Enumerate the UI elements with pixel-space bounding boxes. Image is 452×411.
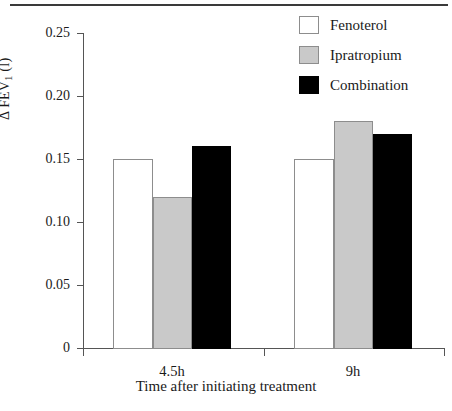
y-tick-015 bbox=[77, 159, 83, 160]
y-tick-label-005: 0.05 bbox=[4, 278, 70, 292]
bar-ipratropium-9h bbox=[334, 121, 373, 349]
x-tick-group-divider bbox=[264, 349, 265, 356]
y-tick-label-000: 0 bbox=[4, 341, 70, 355]
bar-combination-4.5h bbox=[192, 146, 231, 349]
bar-chart-figure: Fenoterol Ipratropium Combination Δ FEV1… bbox=[0, 0, 452, 411]
bar-combination-9h bbox=[373, 134, 412, 349]
bar-fenoterol-9h bbox=[294, 159, 334, 349]
y-tick-005 bbox=[77, 285, 83, 286]
x-tick-label-4.5h: 4.5h bbox=[112, 363, 232, 379]
x-tick-start bbox=[83, 349, 84, 356]
white-square-swatch-icon bbox=[299, 16, 319, 34]
y-tick-label-020: 0.20 bbox=[4, 89, 70, 103]
y-axis-title-suffix: (l) bbox=[0, 57, 12, 75]
y-tick-label-025: 0.25 bbox=[4, 26, 70, 40]
y-axis-line bbox=[83, 33, 84, 348]
y-axis-title-subscript: 1 bbox=[3, 76, 14, 81]
bar-fenoterol-4.5h bbox=[113, 159, 153, 349]
y-tick-label-015: 0.15 bbox=[4, 152, 70, 166]
page-top-rule bbox=[10, 4, 448, 6]
y-tick-020 bbox=[77, 96, 83, 97]
y-tick-025 bbox=[77, 33, 83, 34]
y-tick-label-010: 0.10 bbox=[4, 215, 70, 229]
x-tick-label-9h: 9h bbox=[293, 363, 413, 379]
x-axis-title: Time after initiating treatment bbox=[0, 378, 452, 395]
bar-ipratropium-4.5h bbox=[153, 197, 192, 349]
y-tick-010 bbox=[77, 222, 83, 223]
x-tick-end bbox=[444, 349, 445, 356]
plot-area: 0.25 0.20 0.15 0.10 0.05 0 4.5h 9h bbox=[83, 33, 445, 348]
